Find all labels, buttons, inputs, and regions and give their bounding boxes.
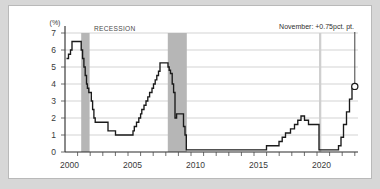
rate-step-line <box>67 42 355 150</box>
y-tick-label: 6 <box>51 45 56 55</box>
y-tick-label: 3 <box>51 96 56 106</box>
y-tick-label: 4 <box>51 79 56 89</box>
y-tick-label: 7 <box>51 28 56 38</box>
axes <box>65 26 358 152</box>
y-axis-unit-label: (%) <box>50 19 61 27</box>
x-tick-label: 2015 <box>249 160 268 170</box>
y-ticks <box>61 33 65 152</box>
x-tick-label: 2010 <box>186 160 205 170</box>
y-tick-labels: 7 6 5 4 3 2 1 0 <box>51 28 56 157</box>
x-tick-label: 2000 <box>60 160 79 170</box>
chart-frame: (%) 7 6 5 4 3 2 1 0 2000 2005 2010 2015 … <box>0 0 380 189</box>
fed-funds-rate-chart: (%) 7 6 5 4 3 2 1 0 2000 2005 2010 2015 … <box>9 6 373 180</box>
recession-label: RECESSION <box>94 25 136 32</box>
x-tick-labels: 2000 2005 2010 2015 2020 <box>60 160 331 170</box>
y-tick-label: 0 <box>51 147 56 157</box>
x-ticks <box>78 152 355 156</box>
x-tick-label: 2020 <box>312 160 331 170</box>
latest-value-callout: November: +0.75pct. pt. <box>279 23 354 31</box>
recession-band-2008 <box>168 33 187 152</box>
y-tick-label: 1 <box>51 130 56 140</box>
y-tick-label: 2 <box>51 113 56 123</box>
chart-card: (%) 7 6 5 4 3 2 1 0 2000 2005 2010 2015 … <box>8 5 372 179</box>
y-gridlines <box>65 33 358 135</box>
x-tick-label: 2005 <box>123 160 142 170</box>
y-tick-label: 5 <box>51 62 56 72</box>
latest-value-marker <box>352 83 358 89</box>
